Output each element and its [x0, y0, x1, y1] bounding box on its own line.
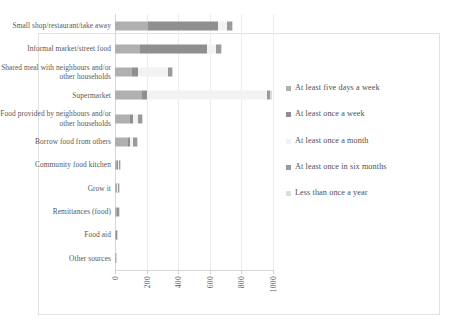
stacked-bar[interactable]	[115, 231, 118, 240]
bar-row	[115, 84, 273, 107]
bar-segment	[270, 91, 272, 100]
category-label: Community food kitchen	[0, 154, 115, 177]
bar-segment	[172, 68, 173, 77]
legend-swatch-icon	[286, 86, 291, 91]
bar-segment	[140, 44, 206, 53]
bar-segment	[137, 137, 138, 146]
stacked-bar[interactable]	[115, 137, 138, 146]
category-label: Supermarket	[0, 84, 115, 107]
bar-row	[115, 107, 273, 130]
bar-row	[115, 177, 273, 200]
bar-segment	[232, 21, 234, 30]
category-label: Borrow food from others	[0, 130, 115, 153]
bar-row	[115, 223, 273, 246]
stacked-bar[interactable]	[115, 21, 234, 30]
stacked-bar[interactable]	[115, 91, 272, 100]
legend-item[interactable]: At least once a month	[286, 136, 434, 147]
category-axis: Small shop/restaurant/take awayInformal …	[0, 14, 115, 270]
axis-tick-label: 400	[174, 276, 183, 288]
bar-row	[115, 247, 273, 270]
stacked-bar[interactable]	[115, 161, 120, 170]
bar-segment	[115, 21, 148, 30]
value-axis: 02004006008001000	[115, 270, 273, 315]
category-label: Remittances (food)	[0, 200, 115, 223]
axis-tick	[147, 270, 148, 274]
category-label: Food aid	[0, 223, 115, 246]
stacked-bar[interactable]	[115, 184, 119, 193]
bar-row	[115, 154, 273, 177]
legend-swatch-icon	[286, 139, 291, 144]
bar-row	[115, 130, 273, 153]
bar-segment	[147, 91, 267, 100]
category-label: Shared meal with neighbours and/or other…	[0, 61, 115, 84]
axis-tick	[241, 270, 242, 274]
category-label: Food provided by neighbours and/or other…	[0, 107, 115, 130]
axis-tick	[273, 270, 274, 274]
axis-tick	[115, 270, 116, 274]
bar-row	[115, 200, 273, 223]
category-label: Other sources	[0, 247, 115, 270]
bar-segment	[115, 91, 142, 100]
bar-segment	[115, 44, 140, 53]
axis-tick-label: 200	[143, 276, 152, 288]
category-label: Small shop/restaurant/take away	[0, 14, 115, 37]
axis-baseline	[115, 270, 273, 271]
legend-swatch-icon	[286, 165, 291, 170]
stacked-bar[interactable]	[115, 44, 222, 53]
bar-segment	[115, 114, 130, 123]
bar-segment	[138, 68, 168, 77]
bar-segment	[115, 137, 128, 146]
stacked-bar[interactable]	[115, 254, 117, 263]
category-label: Informal market/street food	[0, 37, 115, 60]
legend-label: Less than once a year	[295, 188, 368, 199]
bar-row	[115, 37, 273, 60]
legend-label: At least once a month	[295, 136, 369, 147]
axis-tick-label: 600	[206, 276, 215, 288]
bar-segment	[218, 21, 227, 30]
chart-legend: At least five days a weekAt least once a…	[286, 83, 434, 215]
axis-tick-label: 800	[237, 276, 246, 288]
axis-tick-label: 1000	[269, 276, 278, 292]
legend-label: At least once a week	[295, 109, 365, 120]
axis-tick	[178, 270, 179, 274]
plot-area	[115, 14, 273, 270]
legend-label: At least five days a week	[295, 83, 380, 94]
legend-item[interactable]: At least five days a week	[286, 83, 434, 94]
legend-item[interactable]: At least once in six months	[286, 162, 434, 173]
bar-segment	[148, 21, 218, 30]
legend-swatch-icon	[286, 112, 291, 117]
stacked-bar[interactable]	[115, 207, 120, 216]
bar-row	[115, 61, 273, 84]
axis-tick-label: 0	[111, 276, 120, 280]
stacked-bar[interactable]	[115, 114, 143, 123]
category-label: Grow it	[0, 177, 115, 200]
bar-segment	[142, 114, 143, 123]
bar-segment	[221, 44, 222, 53]
legend-item[interactable]: Less than once a year	[286, 188, 434, 199]
stacked-bar[interactable]	[115, 68, 173, 77]
axis-tick	[210, 270, 211, 274]
bar-segment	[115, 68, 132, 77]
bar-series-container	[115, 14, 273, 270]
bar-segment	[207, 44, 216, 53]
legend-item[interactable]: At least once a week	[286, 109, 434, 120]
gridline	[273, 14, 274, 270]
bar-row	[115, 14, 273, 37]
legend-swatch-icon	[286, 191, 291, 196]
legend-label: At least once in six months	[295, 162, 387, 173]
